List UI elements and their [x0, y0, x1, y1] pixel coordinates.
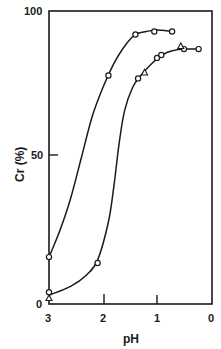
x-tick-label-2: 2 — [100, 312, 106, 324]
data-point-circle — [95, 260, 100, 265]
series-line-1 — [49, 30, 172, 257]
data-point-triangle — [46, 295, 52, 301]
data-point-circle — [133, 32, 138, 37]
data-point-circle — [170, 29, 175, 34]
series-line-2 — [49, 49, 199, 295]
data-point-triangle — [178, 43, 184, 49]
data-point-circle — [159, 52, 164, 57]
data-point-triangle — [142, 69, 148, 75]
data-point-circle — [46, 255, 51, 260]
y-tick-label-100: 100 — [24, 5, 42, 17]
data-point-circle — [152, 29, 157, 34]
series-layer — [46, 29, 201, 301]
plot-frame — [49, 11, 212, 304]
data-point-circle — [106, 73, 111, 78]
chart: 100 50 0 3 2 1 0 pH Cr (%) — [0, 0, 221, 349]
x-tick-label-0: 0 — [208, 312, 214, 324]
y-tick-label-0: 0 — [36, 298, 42, 310]
data-point-circle — [136, 76, 141, 81]
y-axis-label: Cr (%) — [13, 147, 27, 182]
x-tick-label-3: 3 — [45, 312, 51, 324]
x-tick-label-1: 1 — [154, 312, 160, 324]
y-tick-label-50: 50 — [31, 149, 43, 161]
data-point-circle — [196, 46, 201, 51]
x-axis-label: pH — [123, 332, 139, 346]
